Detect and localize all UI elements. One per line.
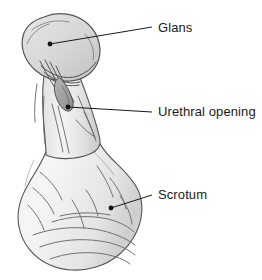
dot-urethral-opening: [66, 105, 71, 110]
callout-label-urethral-opening: Urethral opening: [158, 105, 256, 118]
anatomy-illustration: [0, 0, 262, 280]
callout-label-scrotum: Scrotum: [158, 188, 207, 201]
callout-label-glans: Glans: [158, 21, 192, 34]
dot-scrotum: [109, 206, 114, 211]
anatomy-figure: Glans Urethral opening Scrotum: [0, 0, 262, 280]
glans-shape: [22, 14, 100, 81]
dot-glans: [48, 42, 53, 47]
